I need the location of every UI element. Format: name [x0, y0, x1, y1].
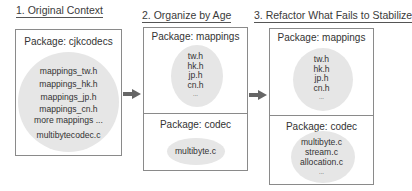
- package-label: Package: codec: [144, 119, 247, 130]
- file-list: tw.h hk.h jp.h cn.h ...: [144, 52, 247, 100]
- file-item: allocation.c: [270, 157, 373, 167]
- file-item: multibyte.c: [270, 137, 373, 147]
- file-item: ...: [144, 90, 247, 100]
- file-item: mappings_cn.h: [16, 104, 121, 115]
- arrow-right-icon: [123, 89, 141, 99]
- file-list: tw.h hk.h jp.h cn.h ...: [270, 55, 373, 103]
- step-1-title: 1. Original Context: [16, 4, 103, 18]
- file-list: mappings_tw.h mappings_hk.h mappings_jp.…: [16, 65, 121, 142]
- file-item: multibytecodec.c: [16, 129, 121, 142]
- file-list: multibyte.c stream.c allocation.c ...: [270, 137, 373, 177]
- step-3-container: Package: mappings tw.h hk.h jp.h cn.h ..…: [269, 28, 374, 185]
- package-label: Package: mappings: [144, 31, 247, 42]
- file-item: mappings_hk.h: [16, 78, 121, 91]
- package-label: Package: mappings: [270, 32, 373, 43]
- arrow-right-icon: [249, 90, 267, 100]
- package-cjkcodecs: Package: cjkcodecs mappings_tw.h mapping…: [15, 29, 122, 156]
- package-divider: [270, 115, 373, 116]
- file-list: multibyte.c: [144, 146, 247, 156]
- file-item: mappings_tw.h: [16, 65, 121, 78]
- file-item: ...: [270, 93, 373, 103]
- step-2-title: 2. Organize by Age: [142, 9, 231, 23]
- file-item: ...: [270, 167, 373, 177]
- package-label: Package: cjkcodecs: [16, 36, 121, 47]
- file-item: more mappings ...: [16, 115, 121, 126]
- file-item: multibyte.c: [144, 146, 247, 156]
- file-item: cn.h: [144, 81, 247, 91]
- step-3-title: 3. Refactor What Fails to Stabilize: [254, 9, 412, 23]
- file-item: mappings_jp.h: [16, 91, 121, 104]
- file-item: stream.c: [270, 147, 373, 157]
- step-2-container: Package: mappings tw.h hk.h jp.h cn.h ..…: [143, 27, 248, 171]
- file-item: cn.h: [270, 84, 373, 94]
- package-divider: [144, 113, 247, 114]
